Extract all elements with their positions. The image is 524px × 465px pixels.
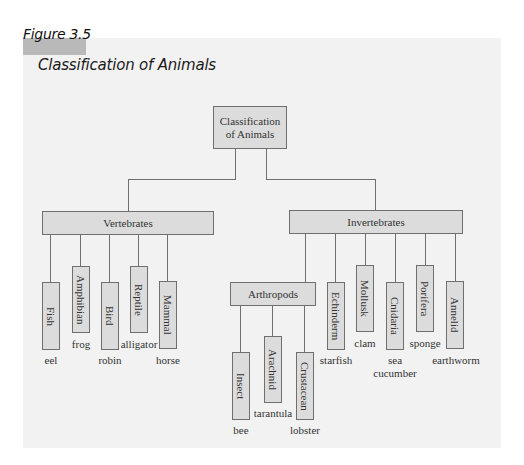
example-mammal: horse <box>152 354 184 367</box>
node-porifera: Porifera <box>416 265 434 332</box>
node-echinoderm-label: Echinderm <box>330 292 342 340</box>
node-mammal-label: Mammal <box>162 295 174 335</box>
node-insect: Insect <box>232 352 250 420</box>
node-cnidaria: Cnidaria <box>386 282 404 350</box>
figure-label: Figure 3.5 <box>23 26 91 42</box>
connector <box>109 235 110 282</box>
node-mollusk-label: Mollusk <box>359 280 371 317</box>
connector <box>305 234 306 282</box>
connector <box>375 179 376 210</box>
node-amphibian-label: Amphibian <box>75 275 87 325</box>
node-bird-label: Bird <box>104 306 116 326</box>
node-insect-label: Insect <box>235 373 247 399</box>
connector <box>240 306 241 352</box>
connector <box>266 179 376 180</box>
example-mollusk: clam <box>350 337 380 350</box>
connector <box>128 179 236 180</box>
connector <box>365 234 366 265</box>
connector <box>128 179 129 211</box>
node-crustacean-label: Crustacean <box>299 362 311 411</box>
node-reptile: Reptile <box>130 266 148 333</box>
connector <box>455 234 456 281</box>
example-echinoderm: starfish <box>318 354 354 367</box>
node-bird: Bird <box>101 282 119 350</box>
connector <box>272 306 273 336</box>
node-invertebrates-label: Invertebrates <box>347 216 404 228</box>
node-mollusk: Mollusk <box>356 265 374 332</box>
connector <box>425 234 426 265</box>
example-fish: eel <box>37 354 65 367</box>
connector <box>50 235 51 282</box>
node-vertebrates: Vertebrates <box>42 211 214 235</box>
connector <box>235 149 236 180</box>
connector <box>80 235 81 266</box>
example-cnidaria: sea cucumber <box>372 354 418 380</box>
node-crustacean: Crustacean <box>296 352 314 420</box>
node-reptile-label: Reptile <box>133 284 145 316</box>
example-cnidaria-line2: cucumber <box>372 367 418 380</box>
node-root: Classification of Animals <box>213 106 287 149</box>
figure-title: Classification of Animals <box>38 56 216 74</box>
example-annelid: earthworm <box>431 354 481 367</box>
node-porifera-label: Porifera <box>419 281 431 316</box>
connector <box>335 234 336 282</box>
node-echinoderm: Echinderm <box>327 282 345 350</box>
node-arachnid-label: Arachnid <box>267 349 279 390</box>
node-amphibian: Amphibian <box>72 266 90 333</box>
figure-panel <box>23 38 501 448</box>
node-cnidaria-label: Cnidaria <box>389 297 401 335</box>
node-mammal: Mammal <box>159 281 177 349</box>
example-reptile: alligator <box>119 338 159 351</box>
node-fish: Fish <box>42 282 60 350</box>
node-root-line2: of Animals <box>226 128 275 141</box>
example-porifera: sponge <box>407 337 443 350</box>
node-annelid-label: Annelid <box>449 297 461 332</box>
connector <box>395 234 396 282</box>
example-insect: bee <box>226 424 256 437</box>
example-arachnid: tarantula <box>252 407 294 420</box>
node-arthropods-label: Arthropods <box>248 288 298 300</box>
node-arthropods: Arthropods <box>230 282 316 306</box>
node-arachnid: Arachnid <box>264 336 282 403</box>
example-crustacean: lobster <box>285 424 325 437</box>
node-invertebrates: Invertebrates <box>289 210 463 234</box>
node-fish-label: Fish <box>45 307 57 326</box>
example-cnidaria-line1: sea <box>372 354 418 367</box>
node-annelid: Annelid <box>446 281 464 349</box>
connector <box>138 235 139 266</box>
connector <box>167 235 168 281</box>
node-root-line1: Classification <box>220 115 281 128</box>
example-amphibian: frog <box>66 338 96 351</box>
example-bird: robin <box>94 354 126 367</box>
connector <box>304 306 305 352</box>
node-vertebrates-label: Vertebrates <box>103 217 152 229</box>
connector <box>266 149 267 180</box>
